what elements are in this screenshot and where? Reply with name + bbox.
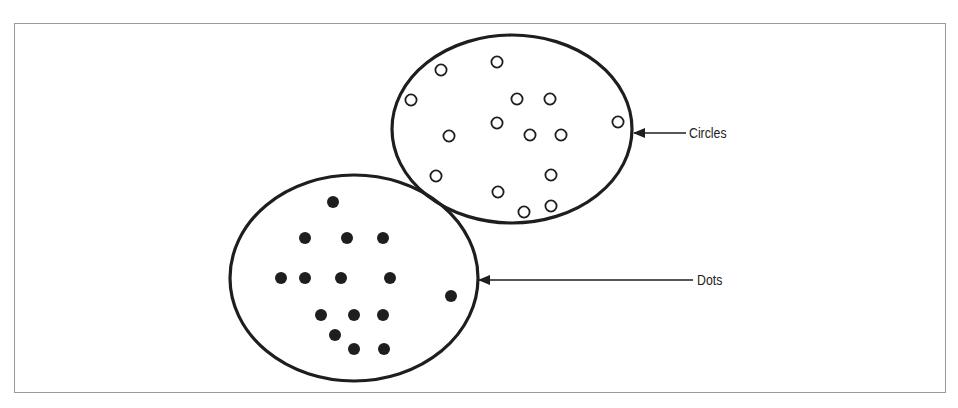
filled-dot-marker — [299, 272, 311, 284]
filled-dot-marker — [348, 309, 360, 321]
hollow-circle-marker — [491, 56, 502, 67]
filled-dot-marker — [341, 232, 353, 244]
filled-dot-marker — [329, 329, 341, 341]
hollow-circle-marker — [435, 64, 446, 75]
filled-dot-marker — [377, 232, 389, 244]
filled-dot-marker — [335, 272, 347, 284]
sets-diagram — [0, 0, 958, 408]
filled-dot-marker — [348, 343, 360, 355]
hollow-circle-marker — [544, 93, 555, 104]
filled-dot-marker — [327, 196, 339, 208]
dots-label: Dots — [697, 271, 722, 289]
hollow-circle-marker — [555, 129, 566, 140]
filled-dot-marker — [378, 343, 390, 355]
hollow-circle-marker — [524, 129, 535, 140]
hollow-circle-marker — [511, 93, 522, 104]
circles-label: Circles — [689, 124, 727, 142]
filled-dot-marker — [315, 309, 327, 321]
hollow-circle-marker — [545, 200, 556, 211]
filled-dot-marker — [299, 232, 311, 244]
filled-dot-marker — [275, 272, 287, 284]
hollow-circle-marker — [443, 130, 454, 141]
hollow-circle-marker — [491, 117, 502, 128]
hollow-circle-marker — [545, 169, 556, 180]
hollow-circle-marker — [405, 94, 416, 105]
hollow-circle-marker — [518, 206, 529, 217]
hollow-circle-marker — [430, 170, 441, 181]
hollow-circle-marker — [492, 186, 503, 197]
filled-dot-marker — [384, 272, 396, 284]
filled-dot-marker — [445, 290, 457, 302]
filled-dot-marker — [377, 309, 389, 321]
hollow-circle-marker — [612, 116, 623, 127]
